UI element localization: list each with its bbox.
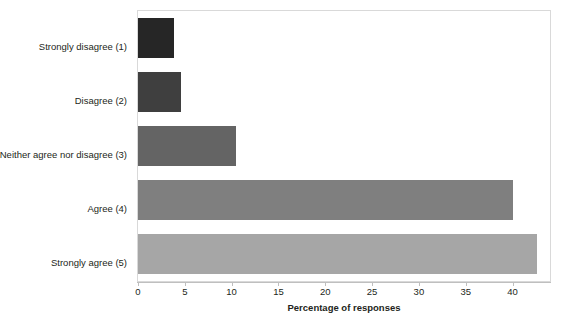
category-label-5: Strongly agree (5) [51,257,127,268]
x-axis-tick-label: 30 [399,286,439,298]
category-label-1: Strongly disagree (1) [39,41,127,52]
x-axis-tick-label: 15 [258,286,298,298]
x-axis-tick-label: 35 [446,286,486,298]
x-axis-tick-label: 40 [493,286,533,298]
category-label-4: Agree (4) [87,203,127,214]
bar-chart: Strongly disagree (1) Disagree (2) Neith… [0,0,564,324]
bar-neither-agree-nor-disagree [138,126,236,166]
x-axis-tick-label: 25 [352,286,392,298]
bar-strongly-disagree [138,18,174,58]
x-axis-title: Percentage of responses [137,302,551,313]
x-axis-line [137,282,551,283]
x-axis-tick-label: 5 [165,286,205,298]
bar-strongly-agree [138,234,537,274]
bar-agree [138,180,513,220]
category-label-2: Disagree (2) [75,95,127,106]
x-axis-tick-label: 0 [118,286,158,298]
x-axis-tick-label: 10 [212,286,252,298]
bar-series [138,11,550,281]
category-axis: Strongly disagree (1) Disagree (2) Neith… [0,10,131,282]
x-axis-tick-label: 20 [305,286,345,298]
category-label-3: Neither agree nor disagree (3) [0,149,127,160]
bar-disagree [138,72,181,112]
